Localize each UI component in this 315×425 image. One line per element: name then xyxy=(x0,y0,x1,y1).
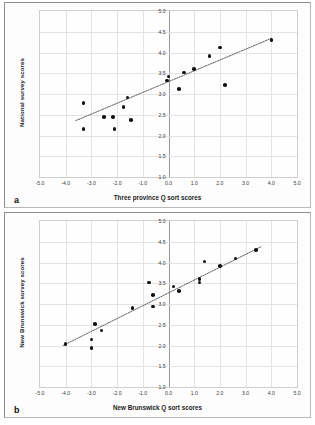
y-axis-tick-label: 3.5 xyxy=(158,280,165,286)
data-point xyxy=(122,105,126,109)
x-axis-tick-label: 5.0 xyxy=(293,180,300,186)
x-axis-tick-label: -5.0 xyxy=(36,390,45,396)
x-axis-tick-label: -5.0 xyxy=(36,180,45,186)
y-axis-tick-label: 3.0 xyxy=(158,301,165,307)
x-axis-tick-label: 0.0 xyxy=(165,390,172,396)
x-axis-tick-label: -2.0 xyxy=(113,180,122,186)
y-axis-tick-label: 1.5 xyxy=(158,363,165,369)
x-axis-tick-label: 3.0 xyxy=(242,390,249,396)
panel-a-letter: a xyxy=(14,195,19,205)
data-point xyxy=(165,79,169,83)
y-axis-tick-label: 2.5 xyxy=(158,322,165,328)
data-point xyxy=(254,248,258,252)
panel-a-plot-wrap: National survey scores -5.0-4.0-3.0-2.0-… xyxy=(5,3,310,207)
panel-b-plot-area: -5.0-4.0-3.0-2.0-1.00.01.02.03.04.05.01.… xyxy=(39,220,298,388)
y-axis-tick-label: 1.0 xyxy=(158,384,165,390)
y-axis-tick-label: 5.0 xyxy=(158,8,165,14)
x-axis-tick-label: 4.0 xyxy=(268,390,275,396)
panel-a-y-axis-title-text: National survey scores xyxy=(18,58,25,127)
x-axis-tick-label: 1.0 xyxy=(191,390,198,396)
y-axis-tick-label: 4.0 xyxy=(158,260,165,266)
x-axis-tick-label: -2.0 xyxy=(113,390,122,396)
data-point xyxy=(218,46,222,50)
x-axis-tick-label: -1.0 xyxy=(138,390,147,396)
x-axis-tick-label: -4.0 xyxy=(61,180,70,186)
x-axis-tick-label: 5.0 xyxy=(293,390,300,396)
x-axis-tick-label: 0.0 xyxy=(165,180,172,186)
y-axis-tick-label: 3.0 xyxy=(158,91,165,97)
data-point xyxy=(177,289,181,293)
panel-a-x-axis-title: Three province Q sort scores xyxy=(5,194,310,201)
panel-b-plot-wrap: New Brunswick survey scores -5.0-4.0-3.0… xyxy=(5,213,310,417)
y-axis-tick-label: 2.5 xyxy=(158,112,165,118)
panel-b-y-axis-title-text: New Brunswick survey scores xyxy=(18,257,25,347)
panel-b-letter: b xyxy=(14,405,20,415)
x-axis-tick-label: 2.0 xyxy=(216,390,223,396)
figure-container: National survey scores -5.0-4.0-3.0-2.0-… xyxy=(0,0,315,425)
panel-a: National survey scores -5.0-4.0-3.0-2.0-… xyxy=(4,2,311,208)
data-point xyxy=(129,118,133,122)
y-axis-tick-label: 4.5 xyxy=(158,239,165,245)
panel-b-y-axis-title: New Brunswick survey scores xyxy=(14,213,28,391)
data-point xyxy=(223,83,227,87)
x-axis-tick-label: 1.0 xyxy=(191,180,198,186)
data-point xyxy=(90,346,94,350)
y-axis-tick-label: 3.5 xyxy=(158,70,165,76)
data-point xyxy=(177,87,181,91)
y-axis-tick-label: 5.0 xyxy=(158,218,165,224)
trendline xyxy=(40,221,297,387)
data-point xyxy=(182,71,186,75)
data-point xyxy=(151,293,155,297)
data-point xyxy=(151,305,155,309)
data-point xyxy=(102,115,106,119)
y-axis-tick-label: 1.0 xyxy=(158,174,165,180)
x-axis-tick-label: -3.0 xyxy=(87,390,96,396)
x-axis-tick-label: -1.0 xyxy=(138,180,147,186)
data-point xyxy=(270,38,274,42)
data-point xyxy=(93,322,97,326)
y-axis-tick-label: 1.5 xyxy=(158,153,165,159)
y-axis-tick-label: 4.0 xyxy=(158,50,165,56)
trendline xyxy=(40,11,297,177)
x-axis-tick-label: -3.0 xyxy=(87,180,96,186)
x-axis-tick-label: 2.0 xyxy=(216,180,223,186)
x-axis-tick-label: 4.0 xyxy=(268,180,275,186)
panel-a-y-axis-title: National survey scores xyxy=(14,3,28,181)
y-axis-tick-label: 4.5 xyxy=(158,29,165,35)
panel-b: New Brunswick survey scores -5.0-4.0-3.0… xyxy=(4,212,311,418)
data-point xyxy=(111,115,115,119)
x-axis-tick-label: 3.0 xyxy=(242,180,249,186)
data-point xyxy=(192,67,196,71)
x-axis-tick-label: -4.0 xyxy=(61,390,70,396)
panel-a-plot-area: -5.0-4.0-3.0-2.0-1.00.01.02.03.04.05.01.… xyxy=(39,10,298,178)
y-axis-tick-label: 2.0 xyxy=(158,133,165,139)
y-axis-tick-label: 2.0 xyxy=(158,343,165,349)
data-point xyxy=(208,54,212,58)
data-point xyxy=(218,264,222,268)
panel-b-x-axis-title: New Brunswick Q sort scores xyxy=(5,404,310,411)
